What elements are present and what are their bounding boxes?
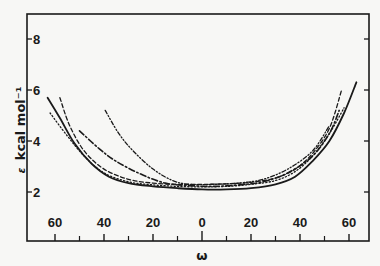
x-tick-label: 60	[48, 215, 62, 230]
y-axis-symbol: ε	[16, 167, 27, 173]
x-tick-label: 60	[342, 215, 356, 230]
curve-dash-dot	[80, 110, 340, 186]
y-tick-label: 2	[33, 185, 40, 200]
x-axis-label: ω	[196, 248, 207, 263]
y-tick-label: 6	[33, 83, 40, 98]
x-tick-label: 40	[97, 215, 111, 230]
curves	[48, 82, 357, 189]
curve-dotted	[50, 108, 344, 187]
y-tick-label: 4	[33, 134, 41, 149]
y-axis-label: ε kcal mol⁻¹	[13, 87, 28, 174]
energy-vs-omega-chart: 6040200204060 2468 ω ε kcal mol⁻¹	[0, 0, 380, 266]
curve-dash-dot-dot	[105, 110, 329, 184]
curve-solid	[48, 82, 357, 189]
y-tick-label: 8	[33, 32, 40, 47]
x-tick-label: 20	[244, 215, 258, 230]
x-tick-label: 40	[293, 215, 307, 230]
plot-border	[27, 14, 369, 241]
curve-dashed	[60, 90, 342, 184]
x-tick-label: 0	[198, 215, 205, 230]
y-axis-ticks: 2468	[27, 32, 369, 200]
x-tick-label: 20	[146, 215, 160, 230]
plot-frame	[27, 14, 369, 241]
x-axis-ticks: 6040200204060	[48, 215, 356, 241]
y-axis-units: kcal mol⁻¹	[13, 87, 28, 161]
